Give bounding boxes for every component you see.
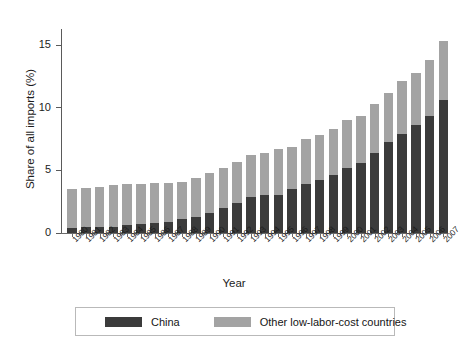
legend-swatch-other-countries (214, 317, 251, 327)
bar-1996 (287, 147, 297, 233)
bar-1980 (67, 189, 77, 233)
bar-segment-china (411, 125, 421, 233)
bar-2005 (411, 73, 421, 233)
bar-segment-other-countries (136, 184, 146, 224)
y-axis-tick (56, 233, 61, 234)
bar-segment-other-countries (246, 155, 256, 196)
bar-1999 (329, 129, 339, 233)
bar-segment-other-countries (384, 93, 394, 142)
bar-segment-other-countries (397, 81, 407, 134)
bar-segment-other-countries (232, 162, 242, 203)
bar-segment-other-countries (329, 129, 339, 175)
bar-segment-china (425, 116, 435, 233)
bar-2004 (397, 81, 407, 233)
bar-segment-other-countries (191, 178, 201, 217)
bar-segment-other-countries (301, 139, 311, 184)
plot-area (62, 30, 447, 233)
bar-1998 (315, 135, 325, 233)
bar-segment-other-countries (260, 153, 270, 196)
bar-1992 (232, 162, 242, 233)
chart-legend: China Other low-labor-cost countries (75, 307, 395, 336)
legend-swatch-china (105, 317, 142, 327)
bar-2006 (425, 60, 435, 233)
legend-label-china: China (151, 316, 180, 328)
bar-segment-china (356, 163, 366, 233)
bar-segment-other-countries (370, 104, 380, 153)
bar-segment-other-countries (95, 187, 105, 227)
y-axis-tick (56, 45, 61, 46)
bar-segment-other-countries (411, 73, 421, 126)
bar-segment-other-countries (425, 60, 435, 116)
bar-segment-other-countries (274, 149, 284, 195)
bar-2002 (370, 104, 380, 233)
bar-segment-other-countries (150, 183, 160, 223)
bar-segment-other-countries (287, 147, 297, 190)
y-axis-tick-label: 5 (11, 163, 51, 175)
bar-segment-china (370, 153, 380, 233)
y-axis-tick-label: 15 (11, 38, 51, 50)
bar-segment-other-countries (205, 173, 215, 213)
bar-2000 (342, 120, 352, 233)
bar-segment-other-countries (109, 185, 119, 226)
bar-segment-china (384, 142, 394, 233)
bar-segment-china (397, 134, 407, 233)
bar-segment-other-countries (439, 41, 449, 100)
bar-2003 (384, 93, 394, 233)
bar-segment-other-countries (219, 168, 229, 208)
bar-segment-other-countries (122, 184, 132, 225)
y-axis-tick-label: 0 (11, 226, 51, 238)
bar-2007 (439, 41, 449, 233)
bar-1995 (274, 149, 284, 233)
bar-segment-other-countries (356, 116, 366, 162)
legend-item-other-countries: Other low-labor-cost countries (214, 316, 407, 328)
legend-item-china: China (105, 316, 180, 328)
bar-segment-other-countries (177, 182, 187, 220)
bar-segment-other-countries (67, 189, 77, 228)
bar-segment-other-countries (315, 135, 325, 180)
y-axis-tick-label: 10 (11, 101, 51, 113)
bar-1994 (260, 153, 270, 233)
y-axis-tick (56, 107, 61, 108)
bar-segment-china (439, 100, 449, 233)
chart-figure: Share of all imports (%) 051015 19801981… (0, 0, 468, 354)
bar-1997 (301, 139, 311, 233)
bar-1993 (246, 155, 256, 233)
bar-2001 (356, 116, 366, 233)
bar-segment-other-countries (342, 120, 352, 168)
bar-segment-other-countries (164, 183, 174, 222)
x-axis-title: Year (0, 277, 468, 289)
y-axis-title: Share of all imports (%) (24, 29, 36, 229)
bar-segment-other-countries (81, 188, 91, 227)
y-axis-tick (56, 170, 61, 171)
legend-label-other-countries: Other low-labor-cost countries (260, 316, 407, 328)
